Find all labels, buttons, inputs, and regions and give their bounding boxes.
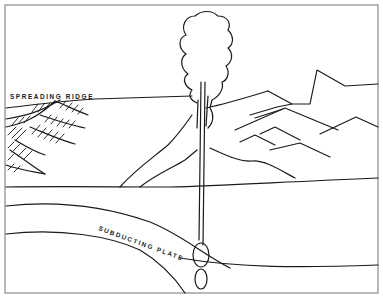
spreading-ridge-label: SPREADING RIDGE [10, 93, 94, 100]
diagram-frame [5, 5, 378, 293]
subduction-diagram: SPREADING RIDGE SUBDUCTING [0, 0, 383, 298]
